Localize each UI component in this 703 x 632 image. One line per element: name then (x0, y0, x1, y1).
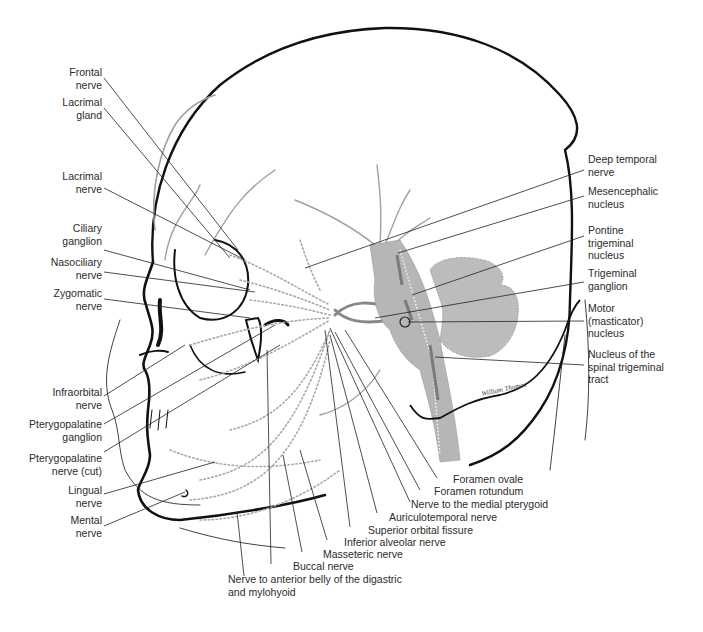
label-line: Auriculotemporal nerve (389, 511, 497, 524)
label-line: ganglion (62, 235, 102, 248)
cerebellum (430, 257, 518, 357)
label-line: nerve (69, 79, 102, 92)
label-line: gland (62, 109, 102, 122)
label-line: Nasociliary (51, 256, 102, 269)
label-line: Zygomatic (54, 287, 102, 300)
label-spinal-trigeminal-nucleus: Nucleus of the spinal trigeminal tract (588, 348, 664, 386)
label-line: Deep temporal (588, 153, 657, 166)
label-pterygopalatine-nerve-cut: Pterygopalatine nerve (cut) (29, 452, 102, 477)
label-line: Buccal nerve (293, 560, 354, 573)
label-foramen-ovale: Foramen ovale (453, 473, 523, 486)
label-line: nerve (588, 166, 657, 179)
label-line: nerve (cut) (29, 465, 102, 478)
label-foramen-rotundum: Foramen rotundum (434, 485, 523, 498)
label-line: nerve (70, 527, 102, 540)
label-line: Infraorbital (52, 386, 102, 399)
label-line: Ciliary (62, 222, 102, 235)
label-line: Frontal (69, 66, 102, 79)
label-auriculotemporal-nerve: Auriculotemporal nerve (389, 511, 497, 524)
label-line: ganglion (29, 431, 102, 444)
label-infraorbital-nerve: Infraorbital nerve (52, 386, 102, 411)
label-pontine-trigeminal-nucleus: Pontine trigeminal nucleus (588, 224, 634, 262)
label-line: Nerve to the medial pterygoid (411, 498, 548, 511)
label-line: Lacrimal (62, 170, 102, 183)
label-zygomatic-nerve: Zygomatic nerve (54, 287, 102, 312)
label-line: Nucleus of the (588, 348, 664, 361)
label-lacrimal-nerve: Lacrimal nerve (62, 170, 102, 195)
label-line: nerve (54, 300, 102, 313)
label-frontal-nerve: Frontal nerve (69, 66, 102, 91)
label-ciliary-ganglion: Ciliary ganglion (62, 222, 102, 247)
label-lingual-nerve: Lingual nerve (68, 484, 102, 509)
label-lacrimal-gland: Lacrimal gland (62, 96, 102, 121)
label-mental-nerve: Mental nerve (70, 514, 102, 539)
label-line: ganglion (588, 280, 637, 293)
label-deep-temporal-nerve: Deep temporal nerve (588, 153, 657, 178)
label-line: Trigeminal (588, 267, 637, 280)
label-pterygopalatine-ganglion: Pterygopalatine ganglion (29, 418, 102, 443)
label-line: Mesencephalic (588, 185, 658, 198)
label-line: Pterygopalatine (29, 452, 102, 465)
label-line: Foramen ovale (453, 473, 523, 486)
skull-outline (107, 28, 589, 548)
label-inferior-alveolar-nerve: Inferior alveolar nerve (344, 536, 446, 549)
label-line: (masticator) (588, 315, 643, 328)
artist-signature: William Thomas (481, 381, 528, 398)
label-mesencephalic-nucleus: Mesencephalic nucleus (588, 185, 658, 210)
label-line: Nerve to anterior belly of the digastric (228, 573, 402, 586)
label-line: Pterygopalatine (29, 418, 102, 431)
label-line: Pontine (588, 224, 634, 237)
label-line: nucleus (588, 249, 634, 262)
dotted-nerve-paths (170, 240, 340, 520)
label-line: nerve (62, 183, 102, 196)
label-line: Inferior alveolar nerve (344, 536, 446, 549)
label-trigeminal-ganglion: Trigeminal ganglion (588, 267, 637, 292)
label-line: Motor (588, 302, 643, 315)
label-line: Mental (70, 514, 102, 527)
label-line: Masseteric nerve (323, 548, 403, 561)
label-line: Lacrimal (62, 96, 102, 109)
label-line: nerve (68, 497, 102, 510)
label-line: trigeminal (588, 237, 634, 250)
label-nasociliary-nerve: Nasociliary nerve (51, 256, 102, 281)
label-line: tract (588, 373, 664, 386)
label-line: spinal trigeminal (588, 361, 664, 374)
label-line: and mylohyoid (228, 586, 402, 599)
label-nerve-anterior-belly-digastric: Nerve to anterior belly of the digastric… (228, 573, 402, 598)
label-line: nucleus (588, 198, 658, 211)
label-motor-masticator-nucleus: Motor (masticator) nucleus (588, 302, 643, 340)
label-line: nerve (52, 399, 102, 412)
label-nerve-medial-pterygoid: Nerve to the medial pterygoid (411, 498, 548, 511)
label-line: Superior orbital fissure (368, 524, 473, 537)
label-line: Foramen rotundum (434, 485, 523, 498)
label-masseteric-nerve: Masseteric nerve (323, 548, 403, 561)
label-line: Lingual (68, 484, 102, 497)
label-line: nerve (51, 269, 102, 282)
label-buccal-nerve: Buccal nerve (293, 560, 354, 573)
label-line: nucleus (588, 327, 643, 340)
label-superior-orbital-fissure: Superior orbital fissure (368, 524, 473, 537)
